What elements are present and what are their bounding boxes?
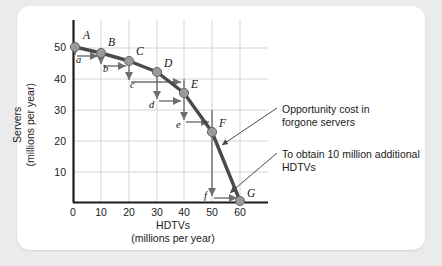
y-tick-10: 10 bbox=[46, 166, 66, 178]
x-tick-40: 40 bbox=[174, 206, 194, 218]
y-axis-title-units: (millions per year) bbox=[24, 65, 37, 185]
annotation-line-1: To obtain 10 million additional bbox=[282, 148, 420, 161]
step-label-e: e bbox=[176, 119, 181, 130]
annotation-line-2: forgone servers bbox=[282, 116, 370, 129]
annotation-line-1: Opportunity cost in bbox=[282, 103, 370, 116]
step-label-d: d bbox=[149, 99, 154, 110]
x-axis-title-name: HDTVs bbox=[93, 219, 253, 232]
point-label-C: C bbox=[136, 45, 144, 57]
step-label-c: c bbox=[130, 79, 135, 90]
x-tick-10: 10 bbox=[91, 206, 111, 218]
x-tick-20: 20 bbox=[119, 206, 139, 218]
x-tick-30: 30 bbox=[147, 206, 167, 218]
step-label-b: b bbox=[103, 63, 108, 74]
point-label-F: F bbox=[219, 117, 226, 129]
x-axis-title: HDTVs (millions per year) bbox=[93, 219, 253, 245]
point-label-G: G bbox=[247, 187, 255, 199]
x-tick-60: 60 bbox=[230, 206, 250, 218]
axes bbox=[73, 20, 268, 203]
y-axis-title: Servers (millions per year) bbox=[11, 65, 37, 185]
y-tick-40: 40 bbox=[46, 73, 66, 85]
x-tick-50: 50 bbox=[202, 206, 222, 218]
step-label-f: f bbox=[204, 190, 207, 201]
y-tick-30: 30 bbox=[46, 104, 66, 116]
point-label-B: B bbox=[108, 36, 115, 48]
gridlines bbox=[73, 20, 268, 202]
point-label-A: A bbox=[83, 29, 90, 41]
x-tick-0: 0 bbox=[63, 206, 83, 218]
annotation-opportunity-cost: Opportunity cost in forgone servers bbox=[282, 103, 370, 128]
x-axis-title-units: (millions per year) bbox=[93, 232, 253, 245]
annotation-line-2: HDTVs bbox=[282, 161, 420, 174]
step-label-a: a bbox=[76, 54, 81, 65]
y-axis-title-name: Servers bbox=[11, 65, 24, 185]
point-label-E: E bbox=[191, 78, 198, 90]
y-tick-50: 50 bbox=[46, 41, 66, 53]
y-tick-20: 20 bbox=[46, 135, 66, 147]
point-label-D: D bbox=[164, 57, 172, 69]
annotation-obtain-hdtvs: To obtain 10 million additional HDTVs bbox=[282, 148, 420, 173]
figure-root: Opportunity cost in forgone servers To o… bbox=[0, 0, 442, 266]
